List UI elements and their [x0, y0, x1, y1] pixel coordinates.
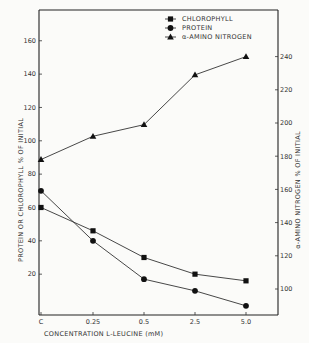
- left-tick-label: 100: [24, 137, 36, 145]
- legend-item-label: PROTEIN: [182, 24, 213, 32]
- left-tick-label: 140: [24, 70, 36, 78]
- left-tick-label: 20: [28, 270, 36, 278]
- series-line: [41, 207, 246, 280]
- left-y-axis-label: PROTEIN OR CHLOROPHYLL % OF INITIAL: [17, 118, 25, 262]
- series-line: [41, 57, 246, 160]
- chart: 2040608010012014016010012014016018020022…: [0, 0, 309, 343]
- left-tick-label: 60: [28, 204, 36, 212]
- right-tick-label: 140: [280, 219, 292, 227]
- circle-marker: [141, 276, 147, 282]
- x-tick-label: 0.25: [86, 318, 100, 326]
- right-tick-label: 180: [280, 153, 292, 161]
- right-tick-label: 220: [280, 86, 292, 94]
- x-tick-label: C: [39, 318, 44, 326]
- right-tick-label: 100: [280, 285, 292, 293]
- x-tick-label: 2.5: [190, 318, 200, 326]
- circle-marker: [192, 288, 198, 294]
- series-protein: [38, 188, 249, 309]
- left-tick-label: 160: [24, 37, 36, 45]
- series-amino-nitrogen: [38, 53, 250, 162]
- right-y-axis-label: α-AMINO NITROGEN % OF INITIAL: [294, 131, 302, 249]
- series-line: [41, 191, 246, 306]
- legend-item-label: CHLOROPHYLL: [182, 15, 233, 23]
- triangle-marker: [167, 34, 174, 40]
- x-tick-label: 5.0: [241, 318, 251, 326]
- left-tick-label: 80: [28, 170, 36, 178]
- square-marker: [141, 255, 146, 260]
- circle-marker: [168, 25, 174, 31]
- left-tick-label: 40: [28, 237, 36, 245]
- right-tick-label: 240: [280, 53, 292, 61]
- circle-marker: [38, 188, 44, 194]
- x-axis-label: CONCENTRATION L-LEUCINE (mM): [44, 330, 163, 338]
- square-marker: [90, 228, 95, 233]
- circle-marker: [90, 238, 96, 244]
- square-marker: [192, 272, 197, 277]
- right-tick-label: 200: [280, 119, 292, 127]
- square-marker: [168, 16, 173, 21]
- right-tick-label: 160: [280, 186, 292, 194]
- circle-marker: [243, 303, 249, 309]
- left-tick-label: 120: [24, 104, 36, 112]
- x-tick-label: 0.5: [139, 318, 149, 326]
- triangle-marker: [243, 53, 250, 59]
- square-marker: [243, 278, 248, 283]
- right-tick-label: 120: [280, 252, 292, 260]
- legend-item-label: α-AMINO NITROGEN: [182, 33, 252, 41]
- series-chlorophyll: [38, 205, 248, 284]
- legend: CHLOROPHYLLPROTEINα-AMINO NITROGEN: [165, 15, 252, 41]
- square-marker: [38, 205, 43, 210]
